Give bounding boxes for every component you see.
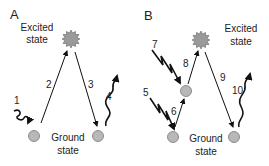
excitation-arrow-8 (188, 51, 198, 84)
photon-in-zigzag-arrow-7 (152, 50, 180, 83)
excited-state-label-line1: Excited (21, 22, 54, 33)
step-label-10: 10 (232, 85, 244, 96)
step-label-4: 4 (106, 91, 112, 102)
excited-state-label-line1: Excited (225, 23, 258, 34)
panel-a: A Excited state Ground state 2 3 1 4 (10, 7, 117, 156)
excited-state-star-icon (62, 30, 80, 48)
photon-in-wavy-arrow-1 (14, 110, 29, 123)
step-label-7: 7 (152, 39, 158, 50)
ground-state-label-line1: Ground (189, 133, 222, 144)
step-label-3: 3 (88, 79, 94, 90)
ground-state-node-right (93, 131, 104, 142)
energy-diagram: A Excited state Ground state 2 3 1 4 B E… (0, 0, 269, 166)
relaxation-arrow-9 (205, 52, 233, 127)
ground-state-label-line1: Ground (51, 132, 84, 143)
photon-out-wavy-arrow-10 (239, 74, 250, 127)
excitation-arrow-2 (41, 51, 67, 123)
excited-state-label-line2: state (26, 34, 48, 45)
ground-state-node-left (29, 131, 40, 142)
panel-label-a: A (10, 7, 19, 22)
panel-label-b: B (144, 8, 153, 23)
step-label-5: 5 (143, 87, 149, 98)
ground-state-node-right (229, 132, 240, 143)
ground-state-label-line2: state (57, 145, 79, 156)
excited-state-label-line2: state (230, 36, 252, 47)
step-label-8: 8 (183, 58, 189, 69)
intermediate-state-node (181, 86, 192, 97)
step-label-1: 1 (14, 95, 20, 106)
step-label-6: 6 (171, 106, 177, 117)
step-label-9: 9 (220, 72, 226, 83)
panel-b: B Excited state Ground state 6 8 9 7 5 1… (143, 8, 257, 157)
step-label-2: 2 (46, 79, 52, 90)
ground-state-node-left (168, 132, 179, 143)
ground-state-label-line2: state (195, 146, 217, 157)
excited-state-star-icon (192, 31, 210, 49)
relaxation-arrow-3 (75, 52, 97, 126)
